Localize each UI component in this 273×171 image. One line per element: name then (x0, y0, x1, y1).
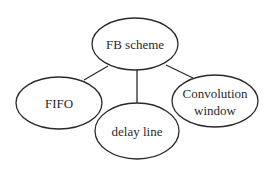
node-fifo: FIFO (16, 77, 102, 129)
edge-fb-scheme-to-convolution-window (166, 65, 193, 78)
node-fb-scheme: FB scheme (92, 18, 178, 70)
node-delay-line: delay line (95, 103, 179, 159)
node-convolution-window-label-line-2: window (194, 103, 237, 118)
node-fb-scheme-label: FB scheme (106, 37, 164, 52)
node-convolution-window-ellipse (172, 75, 258, 127)
node-convolution-window: Convolution window (172, 75, 258, 127)
node-convolution-window-label-line-1: Convolution (182, 86, 248, 101)
node-delay-line-label: delay line (112, 124, 163, 139)
tree-diagram: FB scheme FIFO delay line Convolution wi… (0, 0, 273, 171)
node-fifo-label: FIFO (45, 96, 73, 111)
edge-fb-scheme-to-fifo (84, 66, 108, 80)
